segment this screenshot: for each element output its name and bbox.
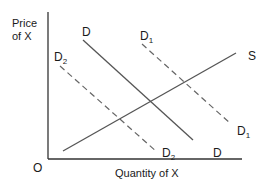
d2-label-top: D2 xyxy=(54,50,68,66)
d1-label-top: D1 xyxy=(140,29,154,45)
origin-label: O xyxy=(33,161,42,175)
demand-curve-d xyxy=(83,40,193,140)
d2-label-bottom: D2 xyxy=(162,146,176,162)
y-axis-label-line1: Price xyxy=(12,17,37,29)
d-label-bottom: D xyxy=(213,146,222,160)
supply-curve-s xyxy=(63,53,236,151)
demand-curve-d2 xyxy=(60,66,157,152)
s-label: S xyxy=(248,49,256,63)
y-axis-label-line2: of X xyxy=(12,30,32,42)
supply-demand-diagram: Price of X O Quantity of X D2 D2 D D D1 … xyxy=(0,0,267,185)
d-label-top: D xyxy=(82,25,91,39)
demand-curve-d1 xyxy=(142,44,231,124)
d1-label-bottom: D1 xyxy=(237,124,251,140)
x-axis-label: Quantity of X xyxy=(115,167,179,179)
